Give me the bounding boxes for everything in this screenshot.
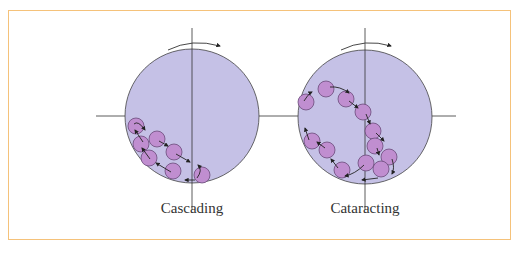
cascading-label: Cascading bbox=[161, 200, 223, 217]
cascading-drum bbox=[125, 28, 259, 210]
cataracting-label: Cataracting bbox=[330, 200, 399, 217]
rotation-arrow-icon bbox=[341, 43, 391, 50]
cataracting-drum bbox=[298, 28, 432, 210]
mill-diagram bbox=[0, 0, 523, 253]
